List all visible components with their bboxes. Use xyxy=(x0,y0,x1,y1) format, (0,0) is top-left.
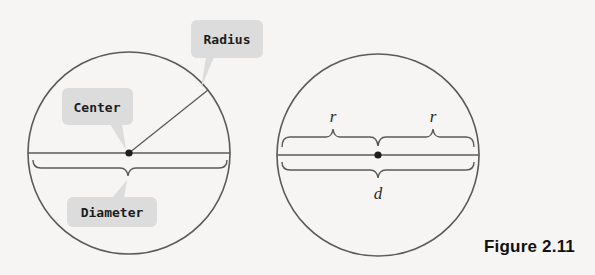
left-circle-group: Radius Center Diameter xyxy=(28,20,263,254)
radius-callout: Radius xyxy=(191,20,263,88)
diameter-callout: Diameter xyxy=(67,180,157,227)
figure-caption: Figure 2.11 xyxy=(484,237,575,257)
radius-r-right-label: r xyxy=(430,107,437,126)
diameter-d-label: d xyxy=(374,184,383,203)
circle-diagram: Radius Center Diameter r r d xyxy=(0,0,595,275)
center-callout: Center xyxy=(62,88,133,150)
right-radius-brace-left xyxy=(282,129,378,147)
diameter-label: Diameter xyxy=(81,205,144,220)
radius-r-left-label: r xyxy=(330,107,337,126)
left-center-dot xyxy=(125,149,132,156)
right-center-dot xyxy=(374,151,381,158)
left-diameter-brace xyxy=(33,160,227,176)
right-circle-group: r r d xyxy=(277,54,479,256)
radius-label: Radius xyxy=(204,32,251,47)
right-radius-brace-right xyxy=(378,129,474,147)
left-radius-line xyxy=(129,90,208,153)
center-label: Center xyxy=(74,100,121,115)
right-diameter-brace xyxy=(282,162,474,178)
